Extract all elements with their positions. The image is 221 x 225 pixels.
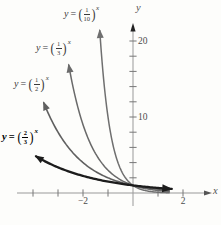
x-axis-arrow-icon [204, 190, 212, 195]
equation-lhs: y [14, 79, 18, 89]
fraction: 13 [56, 40, 62, 57]
fraction-numerator: 1 [84, 6, 90, 15]
fraction-denominator: 2 [35, 85, 38, 93]
close-paren: ) [91, 7, 95, 22]
exponent: x [34, 128, 38, 135]
fraction-denominator: 10 [84, 15, 91, 23]
y-axis-arrow-icon [130, 23, 135, 32]
plot-canvas [0, 0, 221, 225]
equals-sign: = [42, 43, 48, 53]
curve-y=(1/3)^x [69, 65, 170, 191]
y-tick-label: 10 [138, 113, 148, 123]
curve-y=(2/3)^x [36, 156, 172, 189]
fraction: 110 [84, 6, 91, 23]
equation-lhs: y [2, 132, 7, 143]
equation-lhs: y [64, 9, 68, 19]
x-tick-label: 2 [176, 197, 190, 207]
fraction-numerator: 2 [22, 129, 28, 138]
close-paren: ) [41, 77, 45, 92]
exponent: x [68, 39, 71, 46]
fraction: 23 [22, 129, 28, 146]
exponent: x [96, 5, 99, 12]
curve-y=(1/10)^x [100, 31, 170, 193]
close-paren: ) [29, 130, 33, 145]
equation-label-one-third: y=(13)x [36, 40, 71, 57]
fraction-numerator: 1 [56, 40, 62, 49]
exponent: x [46, 75, 49, 82]
y-axis-label: y [136, 3, 141, 14]
equation-lhs: y [36, 43, 40, 53]
equation-label-one-half: y=(12)x [14, 76, 49, 93]
exponential-functions-figure: y=(110)x y=(13)x y=(12)x y=(23)x x y −22… [0, 0, 221, 225]
open-paren: ( [17, 130, 21, 145]
y-tick-label: 20 [138, 37, 148, 47]
open-paren: ( [79, 7, 83, 22]
open-paren: ( [29, 77, 33, 92]
curve-y=(1/2)^x [44, 103, 170, 190]
equation-label-two-thirds: y=(23)x [2, 129, 38, 146]
fraction: 12 [34, 76, 40, 93]
equals-sign: = [20, 79, 26, 89]
equals-sign: = [70, 9, 76, 19]
x-axis-label: x [213, 186, 218, 197]
fraction-numerator: 1 [34, 76, 40, 85]
equation-label-one-tenth: y=(110)x [64, 6, 99, 23]
fraction-denominator: 3 [57, 49, 60, 57]
equals-sign: = [9, 132, 15, 143]
x-tick-label: −2 [76, 197, 90, 207]
fraction-denominator: 3 [24, 138, 27, 146]
close-paren: ) [63, 41, 67, 56]
open-paren: ( [51, 41, 55, 56]
